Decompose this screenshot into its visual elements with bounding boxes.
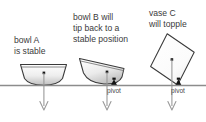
caption-vase-c: vase C will topple xyxy=(148,8,187,29)
caption-bowl-b: bowl B will tip back to a stable positio… xyxy=(73,12,128,44)
caption-bowl-b-line2: tip back to a xyxy=(73,23,120,33)
vase-c-group: pivot xyxy=(151,34,195,110)
caption-bowl-b-line3: stable position xyxy=(73,34,128,44)
vase-c-pivot-cap xyxy=(177,78,180,80)
caption-vase-c-line2: will topple xyxy=(148,19,187,29)
caption-bowl-a-line2: is stable xyxy=(14,46,46,56)
bowl-b-group: pivot xyxy=(80,59,125,111)
bowl-b-pivot-cap xyxy=(112,78,115,80)
caption-bowl-a-line1: bowl A xyxy=(14,35,40,45)
pivot-label-b: pivot xyxy=(107,87,121,95)
caption-vase-c-line1: vase C xyxy=(149,8,176,18)
pivot-label-c: pivot xyxy=(171,87,185,95)
stability-diagram: bowl A is stable bowl B will tip back to… xyxy=(0,0,206,122)
bowl-a-group xyxy=(21,65,67,111)
caption-bowl-b-line1: bowl B will xyxy=(73,12,113,22)
caption-bowl-a: bowl A is stable xyxy=(14,35,46,56)
